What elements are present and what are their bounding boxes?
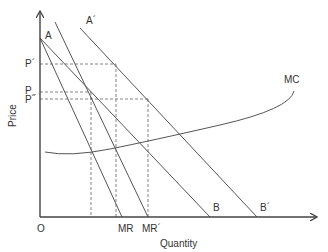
x-axis-label: Quantity xyxy=(160,238,197,249)
mc-curve xyxy=(45,91,294,154)
demand-curve-ab xyxy=(40,38,210,217)
label-b-prime: B´ xyxy=(260,202,270,213)
economics-diagram: A A´ P´ P P˝ MC B B´ O MR MR´ Quantity P… xyxy=(0,0,328,252)
label-mc: MC xyxy=(284,74,300,85)
label-mr: MR xyxy=(118,223,134,234)
label-p-prime: P´ xyxy=(25,58,35,69)
label-p-double-prime: P˝ xyxy=(25,94,36,105)
mr-curve xyxy=(40,38,122,217)
label-origin: O xyxy=(37,223,45,234)
label-a: A xyxy=(45,30,52,41)
label-b: B xyxy=(213,202,220,213)
label-mr-prime: MR´ xyxy=(142,223,161,234)
y-axis-label: Price xyxy=(7,104,18,127)
label-a-prime: A´ xyxy=(86,15,96,26)
